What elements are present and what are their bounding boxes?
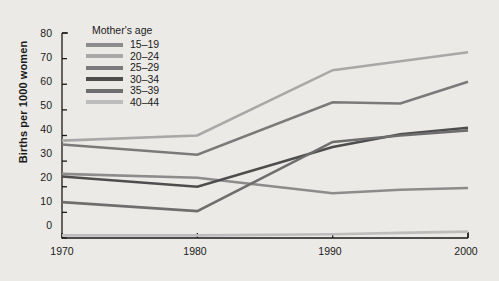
series-line-35-39 xyxy=(62,130,468,211)
series-lines xyxy=(62,52,468,235)
plot-area xyxy=(0,0,499,281)
chart-figure: Births per 1000 women 80 70 60 50 40 30 … xyxy=(0,0,499,281)
series-line-25-29 xyxy=(62,82,468,155)
series-line-40-44 xyxy=(62,232,468,236)
